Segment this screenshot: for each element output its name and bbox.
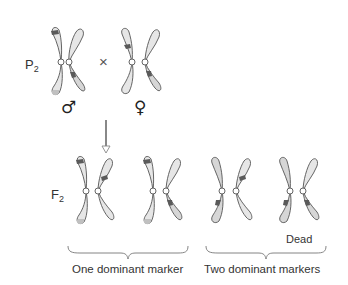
chromosome (300, 159, 319, 220)
p2-male-pair (51, 27, 85, 95)
down-arrow-icon (102, 120, 110, 153)
chromosome (233, 159, 252, 220)
chromosome (66, 29, 85, 91)
f2-pair-3 (212, 157, 252, 222)
chromosome (143, 156, 156, 224)
f2-pair-2 (143, 156, 182, 224)
chromosome (163, 159, 182, 220)
chromosome (280, 157, 293, 222)
chromosome (76, 156, 89, 224)
f2-pair-4 (280, 157, 319, 222)
chromosome (212, 157, 225, 222)
f2-pair-1 (76, 156, 114, 224)
p2-female-pair (122, 28, 161, 93)
chromosome (95, 159, 114, 220)
chromosome-diagram (0, 0, 348, 285)
brace-one-dominant (68, 246, 188, 259)
chromosome (51, 27, 64, 95)
chromosome (142, 30, 161, 91)
chromosome (122, 28, 135, 93)
brace-two-dominant (206, 246, 326, 259)
